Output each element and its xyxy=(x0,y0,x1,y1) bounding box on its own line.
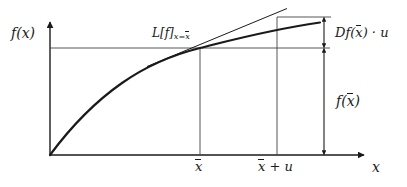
function-curve xyxy=(50,23,320,156)
guide-lines-group xyxy=(50,17,331,155)
x-axis-label: x xyxy=(372,160,380,174)
linearization-figure: f(x) L[f]x=x Df(x) · u f(x) x x + u x xyxy=(0,0,407,187)
y-axis-label: f(x) xyxy=(11,26,35,40)
function-value-label: f(x) xyxy=(336,94,360,108)
tangent-line-label: L[f]x=x xyxy=(152,27,190,40)
derivative-term-label: Df(x) · u xyxy=(335,26,389,39)
x-tick-label-xbar-plus-u: x + u xyxy=(258,160,293,173)
x-tick-label-xbar: x xyxy=(195,160,202,173)
